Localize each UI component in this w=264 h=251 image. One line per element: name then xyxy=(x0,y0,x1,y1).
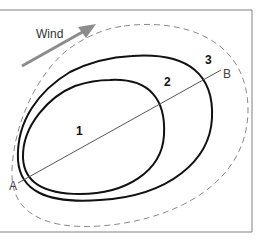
contour-zone-3 xyxy=(18,56,212,201)
wind-label: Wind xyxy=(36,27,63,41)
fire-spread-diagram: Wind A B 1 2 3 xyxy=(0,0,264,251)
point-a-label: A xyxy=(9,179,17,193)
point-b-label: B xyxy=(223,67,231,81)
zone-1-label: 1 xyxy=(76,124,83,138)
zone-2-label: 2 xyxy=(164,75,171,89)
contour-zone-2 xyxy=(23,80,164,194)
zone-3-label: 3 xyxy=(205,53,212,67)
